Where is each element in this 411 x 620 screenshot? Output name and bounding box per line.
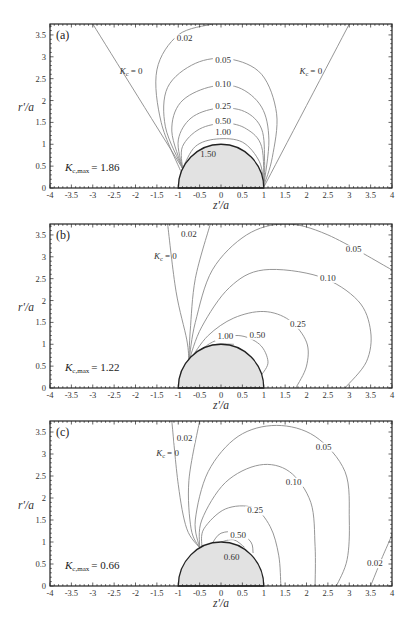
x-tick-label: -3.5	[65, 190, 78, 200]
contour-value-label: 0.50	[249, 330, 265, 340]
x-tick-label: 3	[347, 588, 351, 598]
kmax-annotation: Kc,max= 1.86	[64, 161, 120, 175]
panel-label: (c)	[56, 425, 69, 439]
x-tick-label: 0.5	[237, 588, 248, 598]
y-tick-label: 1.5	[35, 117, 46, 127]
x-tick-label: 1.5	[280, 588, 291, 598]
x-tick-label: -2	[132, 190, 139, 200]
panel-label: (a)	[56, 28, 69, 42]
contour-value-label: 0.02	[177, 33, 193, 43]
contour-value-label: 0.10	[320, 273, 336, 283]
y-tick-label: 1	[42, 537, 46, 547]
y-tick-label: 0	[42, 183, 46, 193]
x-tick-label: 4	[390, 190, 395, 200]
y-tick-label: 3.5	[35, 427, 46, 437]
y-axis-title: r'/a	[18, 499, 34, 511]
contour-value-label: 0.02	[367, 558, 383, 568]
y-axis-title: r'/a	[18, 301, 34, 313]
kc-zero-label: Kc= 0	[153, 251, 177, 262]
y-tick-label: 2.5	[35, 74, 46, 84]
contour-plot-c: -4-3.5-3-2.5-2-1.5-1-0.500.511.522.533.5…	[0, 397, 411, 612]
x-tick-label: 4	[390, 588, 395, 598]
panel-b: -4-3.5-3-2.5-2-1.5-1-0.500.511.522.533.5…	[0, 200, 411, 400]
contour-value-label: 0.60	[224, 552, 240, 562]
y-tick-label: 0.5	[35, 161, 46, 171]
y-tick-label: 3.5	[35, 30, 46, 40]
y-tick-label: 2	[42, 296, 46, 306]
contour-plot-b: -4-3.5-3-2.5-2-1.5-1-0.500.511.522.533.5…	[0, 200, 411, 410]
x-tick-label: -1	[175, 190, 182, 200]
x-tick-label: -3	[89, 190, 96, 200]
y-axis-title: r'/a	[18, 101, 34, 113]
y-tick-label: 3	[42, 449, 46, 459]
x-tick-label: -2.5	[107, 190, 120, 200]
y-tick-label: 2.5	[35, 274, 46, 284]
x-tick-label: 0.5	[237, 190, 248, 200]
x-tick-label: -3	[89, 588, 96, 598]
contour-value-label: 0.02	[181, 229, 197, 239]
sphere-shape	[178, 144, 264, 188]
y-tick-label: 0	[42, 383, 46, 393]
contour-value-label: 0.05	[316, 442, 332, 452]
x-tick-label: -2	[132, 588, 139, 598]
x-tick-label: 2	[304, 588, 308, 598]
contour-value-label: 1.50	[200, 149, 216, 159]
x-tick-label: -4	[46, 190, 54, 200]
x-tick-label: 3	[347, 190, 351, 200]
contour-value-label: 1.00	[217, 331, 233, 341]
x-tick-label: -0.5	[193, 588, 206, 598]
kc-zero-label: Kc= 0	[119, 66, 143, 77]
contour-value-label: 0.50	[230, 530, 246, 540]
y-tick-label: 1	[42, 139, 46, 149]
x-tick-label: -2.5	[107, 588, 120, 598]
y-tick-label: 0.5	[35, 361, 46, 371]
panel-label: (b)	[56, 228, 70, 242]
y-tick-label: 3	[42, 52, 46, 62]
y-tick-label: 2	[42, 96, 46, 106]
x-tick-label: -1.5	[150, 588, 163, 598]
contour-line	[93, 24, 183, 168]
x-tick-label: 1	[262, 190, 266, 200]
y-tick-label: 3	[42, 252, 46, 262]
x-tick-label: -0.5	[193, 190, 206, 200]
y-tick-label: 2	[42, 493, 46, 503]
contour-value-label: 0.05	[346, 244, 362, 254]
x-tick-label: 3.5	[365, 190, 376, 200]
contour-value-label: 1.00	[215, 127, 231, 137]
y-tick-label: 0	[42, 581, 46, 591]
contour-value-label: 0.10	[215, 79, 231, 89]
contour-value-label: 0.05	[215, 55, 231, 65]
panel-c: -4-3.5-3-2.5-2-1.5-1-0.500.511.522.533.5…	[0, 397, 411, 597]
x-tick-label: 2.5	[323, 190, 334, 200]
contour-value-label: 0.25	[290, 319, 306, 329]
contour-value-label: 0.25	[215, 101, 231, 111]
y-tick-label: 3.5	[35, 230, 46, 240]
x-tick-label: 2	[304, 190, 308, 200]
y-tick-label: 2.5	[35, 471, 46, 481]
sphere-shape	[178, 344, 264, 388]
contour-value-label: 0.25	[247, 505, 263, 515]
y-tick-label: 1.5	[35, 515, 46, 525]
contour-line	[168, 224, 189, 361]
contour-line	[264, 24, 350, 187]
x-tick-label: 1	[262, 588, 266, 598]
panel-a: -4-3.5-3-2.5-2-1.5-1-0.500.511.522.533.5…	[0, 0, 411, 200]
x-tick-label: -3.5	[65, 588, 78, 598]
x-axis-title: z'/a	[212, 597, 229, 609]
x-tick-label: -1	[175, 588, 182, 598]
contour-value-label: 0.10	[286, 477, 302, 487]
y-tick-label: 1	[42, 339, 46, 349]
x-tick-label: 2.5	[323, 588, 334, 598]
kmax-annotation: Kc,max= 0.66	[64, 559, 120, 573]
contour-plot-a: -4-3.5-3-2.5-2-1.5-1-0.500.511.522.533.5…	[0, 0, 411, 205]
kmax-annotation: Kc,max= 1.22	[64, 361, 119, 375]
y-tick-label: 0.5	[35, 559, 46, 569]
y-tick-label: 1.5	[35, 317, 46, 327]
x-tick-label: -1.5	[150, 190, 163, 200]
kc-zero-label: Kc= 0	[298, 66, 322, 77]
sphere-shape	[178, 542, 264, 586]
x-tick-label: -4	[46, 588, 54, 598]
kc-zero-label: Kc= 0	[155, 448, 179, 459]
x-tick-label: 1.5	[280, 190, 291, 200]
contour-value-label: 0.50	[215, 116, 231, 126]
